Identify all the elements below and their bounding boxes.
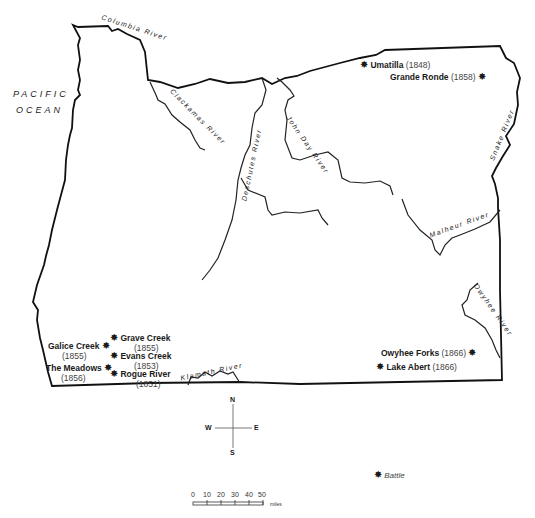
battle-owyhee-forks: Owyhee Forks (1866) ✸ xyxy=(381,348,476,358)
compass-west: W xyxy=(205,424,212,431)
battle-icon: ✸ xyxy=(376,361,384,372)
compass-east: E xyxy=(254,424,259,431)
battle-icon: ✸ xyxy=(468,347,476,358)
battle-galice-creek: Galice Creek ✸ xyxy=(48,341,110,351)
battle-rogue-river: ✸ Rogue River xyxy=(110,369,170,379)
scale-tick: 30 xyxy=(231,491,239,498)
legend-label: Battle xyxy=(384,471,404,480)
deschutes-tributary xyxy=(241,178,328,225)
battle-the-meadows-year: (1856) xyxy=(61,373,86,383)
battle-lake-abert: ✸ Lake Abert (1866) xyxy=(376,362,457,372)
deschutes-river xyxy=(202,78,266,280)
scale-tick: 40 xyxy=(245,491,253,498)
scale-tick: 0 xyxy=(191,491,195,498)
battle-icon: ✸ xyxy=(110,332,118,343)
compass-north: N xyxy=(230,396,235,403)
compass-south: S xyxy=(230,449,235,456)
ocean-label-2: OCEAN xyxy=(16,105,63,115)
scale-unit: miles xyxy=(270,501,282,507)
scale-tick: 20 xyxy=(217,491,225,498)
battle-the-meadows: The Meadows ✸ xyxy=(46,363,112,373)
battle-icon: ✸ xyxy=(110,368,118,379)
battle-umatilla: ✸ Umatilla (1848) xyxy=(360,60,430,70)
battle-grande-ronde: Grande Ronde (1858) ✸ xyxy=(390,72,486,82)
battle-icon: ✸ xyxy=(110,350,118,361)
battle-evans-creek: ✸ Evans Creek xyxy=(110,351,171,361)
battle-icon: ✸ xyxy=(360,59,368,70)
battle-grave-creek: ✸ Grave Creek xyxy=(110,333,170,343)
battle-rogue-river-year: (1851) xyxy=(136,379,161,389)
battle-icon: ✸ xyxy=(374,469,382,480)
battle-galice-creek-year: (1855) xyxy=(62,351,87,361)
battle-icon: ✸ xyxy=(478,71,486,82)
scale-tick: 50 xyxy=(258,491,266,498)
ocean-label-1: PACIFIC xyxy=(13,89,69,99)
scale-tick: 10 xyxy=(203,491,211,498)
battle-icon: ✸ xyxy=(102,340,110,351)
legend: ✸ Battle xyxy=(374,470,405,481)
